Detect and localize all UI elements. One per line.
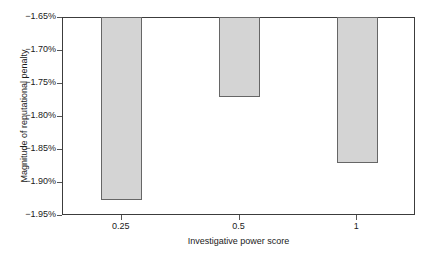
x-axis-tick-label: 1 [321,221,391,231]
plot-frame [62,17,415,215]
y-axis-tick-label: −1.70% [12,44,56,54]
bar [101,17,142,200]
y-axis-tick-label: −1.95% [12,209,56,219]
y-axis-tick-labels: −1.65%−1.70%−1.75%−1.80%−1.85%−1.90%−1.9… [12,0,56,261]
y-axis-tick-label: −1.85% [12,143,56,153]
y-axis-tick-mark [57,116,62,117]
y-axis-tick-label: −1.65% [12,11,56,21]
x-axis-title: Investigative power score [62,236,415,246]
x-axis-tick-mark [356,215,357,220]
bar [337,17,378,163]
y-axis-tick-label: −1.75% [12,77,56,87]
y-axis-tick-mark [57,17,62,18]
y-axis-tick-mark [57,50,62,51]
x-axis-tick-mark [121,215,122,220]
x-axis-tick-label: 0.5 [204,221,274,231]
y-axis-tick-mark [57,149,62,150]
y-axis-tick-label: −1.90% [12,176,56,186]
bar-chart-figure: Magnitude of reputational penalty −1.65%… [0,0,430,261]
x-axis-tick-label: 0.25 [86,221,156,231]
y-axis-tick-label: −1.80% [12,110,56,120]
plot-area [63,18,414,214]
y-axis-tick-mark [57,83,62,84]
y-axis-tick-mark [57,182,62,183]
bar [219,17,260,97]
x-axis-tick-mark [239,215,240,220]
y-axis-tick-mark [57,215,62,216]
